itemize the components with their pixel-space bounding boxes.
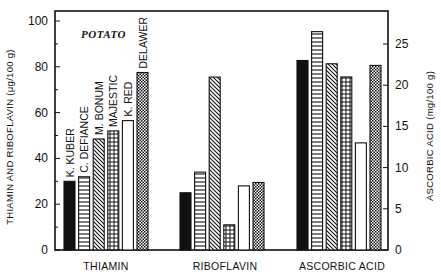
bar-c-defiance-ascorbic-acid — [312, 32, 323, 250]
bar-majestic-ascorbic-acid — [341, 77, 352, 250]
bar-chart: 0 20 40 60 80 100 0 5 10 15 20 25 THIAMI… — [0, 0, 441, 280]
bar-label: K. KUBER — [64, 128, 76, 177]
y-tick-label: 100 — [28, 14, 48, 28]
bar-majestic-thiamin — [108, 131, 119, 250]
category-label-ascorbic-acid: ASCORBIC ACID — [299, 260, 385, 272]
y-tick-label: 0 — [41, 243, 48, 257]
bars — [64, 32, 381, 250]
y2-tick-label: 25 — [395, 37, 409, 51]
bar-labels: K. KUBERC. DEFIANCEM. BONUMMAJESTICK. RE… — [64, 17, 149, 178]
bar-majestic-riboflavin — [224, 225, 235, 250]
y2-tick-label: 20 — [395, 78, 409, 92]
bar-k-kuber-ascorbic-acid — [297, 60, 308, 250]
bar-k-red-riboflavin — [238, 186, 249, 250]
y2-tick-label: 5 — [395, 202, 402, 216]
category-label-riboflavin: RIBOFLAVIN — [193, 260, 258, 272]
bar-label: K. RED — [122, 81, 134, 116]
bar-label: DELAWER — [137, 17, 149, 69]
bar-label: M. BONUM — [93, 81, 105, 135]
chart-title: POTATO — [81, 28, 126, 40]
bar-k-red-thiamin — [122, 121, 133, 250]
bar-m-bonum-thiamin — [93, 139, 104, 250]
bar-delawer-thiamin — [137, 73, 148, 250]
category-label-thiamin: THIAMIN — [83, 260, 128, 272]
y-tick-label: 40 — [35, 151, 49, 165]
bar-m-bonum-ascorbic-acid — [326, 64, 337, 250]
bar-label: MAJESTIC — [107, 75, 119, 127]
plot-frame — [55, 11, 388, 250]
bar-delawer-ascorbic-acid — [370, 65, 381, 250]
bar-delawer-riboflavin — [253, 182, 264, 250]
bar-c-defiance-thiamin — [79, 177, 90, 250]
bar-k-kuber-thiamin — [64, 181, 75, 250]
y2-axis-title: ASCORBIC ACID (mg/100 g) — [424, 71, 435, 201]
y2-tick-label: 0 — [395, 243, 402, 257]
bar-k-kuber-riboflavin — [180, 193, 191, 250]
y-axis-title: THIAMIN AND RIBOFLAVIN (μg/100 g) — [4, 49, 15, 225]
bar-k-red-ascorbic-acid — [355, 143, 366, 250]
y2-tick-label: 15 — [395, 119, 409, 133]
y2-tick-label: 10 — [395, 161, 409, 175]
bar-c-defiance-riboflavin — [195, 172, 206, 250]
y-tick-label: 20 — [35, 197, 49, 211]
y-tick-label: 60 — [35, 106, 49, 120]
bar-m-bonum-riboflavin — [209, 77, 220, 250]
bar-label: C. DEFIANCE — [78, 106, 90, 173]
y-tick-label: 80 — [35, 60, 49, 74]
